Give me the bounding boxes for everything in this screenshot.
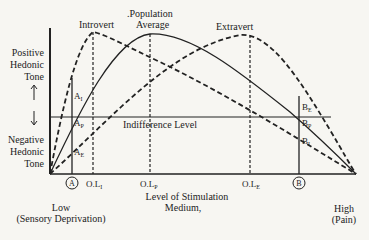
x-axis-title-1: Level of Stimulation — [146, 191, 229, 202]
svg-text:Level of Stimulation: Level of Stimulation — [146, 191, 229, 202]
b-circle-label: B — [296, 179, 301, 188]
point-b-population: BP — [302, 118, 312, 129]
ol-introvert-label: O.LI — [86, 179, 102, 190]
down-arrow-icon — [31, 111, 37, 125]
svg-text:Indifference Level: Indifference Level — [123, 119, 197, 130]
point-b-introvert: BI — [302, 136, 310, 147]
x-axis-title-2: Medium, — [165, 202, 201, 213]
negative-label-2: Hedonic — [10, 146, 44, 157]
svg-text:Positive: Positive — [12, 47, 45, 58]
negative-label-3: Tone — [24, 158, 44, 169]
hedonic-tone-diagram: Positive Hedonic Tone Negative Hedonic T… — [0, 0, 369, 240]
negative-label-1: Negative — [8, 134, 45, 145]
population-label-2: Average — [136, 19, 170, 30]
svg-text:(Sensory Deprivation): (Sensory Deprivation) — [16, 213, 105, 225]
svg-text:B: B — [296, 179, 301, 188]
point-a-population: AP — [74, 118, 85, 129]
indifference-label: Indifference Level — [123, 119, 197, 130]
extravert-curve — [50, 35, 356, 174]
high-label-1: High — [334, 203, 354, 214]
svg-text:Hedonic: Hedonic — [10, 146, 44, 157]
ol-extravert-label: O.LE — [242, 179, 260, 190]
svg-text:Low: Low — [52, 202, 71, 213]
population-average-curve — [50, 34, 356, 174]
point-a-extravert: AE — [74, 147, 85, 158]
svg-text:Tone: Tone — [24, 158, 44, 169]
svg-text:Negative: Negative — [8, 134, 45, 145]
svg-text:High: High — [334, 203, 354, 214]
up-arrow-icon — [31, 85, 37, 100]
introvert-curve — [50, 32, 356, 174]
low-label-2: (Sensory Deprivation) — [16, 213, 105, 225]
point-a-introvert: AI — [74, 91, 83, 102]
svg-text:Introvert: Introvert — [79, 19, 114, 30]
svg-text:Extravert: Extravert — [216, 21, 253, 32]
svg-text:Tone: Tone — [24, 71, 44, 82]
positive-label-1: Positive — [12, 47, 45, 58]
low-label-1: Low — [52, 202, 71, 213]
positive-label-3: Tone — [24, 71, 44, 82]
svg-text:Hedonic: Hedonic — [10, 59, 44, 70]
ol-population-label: O.LP — [140, 179, 158, 190]
svg-text:Average: Average — [136, 19, 170, 30]
introvert-label: Introvert — [79, 19, 114, 30]
positive-label-2: Hedonic — [10, 59, 44, 70]
svg-text:Medium,: Medium, — [165, 202, 201, 213]
extravert-label: Extravert — [216, 21, 253, 32]
a-circle-label: A — [69, 179, 75, 188]
high-label-2: (Pain) — [332, 214, 356, 226]
point-b-extravert: BE — [302, 102, 312, 113]
svg-text:A: A — [69, 179, 75, 188]
svg-text:.Population: .Population — [127, 8, 173, 19]
population-label-1: .Population — [127, 8, 173, 19]
svg-text:(Pain): (Pain) — [332, 214, 356, 226]
